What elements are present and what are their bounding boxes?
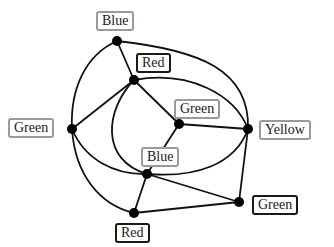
node-label-n2: Red: [136, 53, 171, 73]
edge-n6-n8: [147, 174, 239, 202]
node-label-n3: Green: [8, 118, 54, 138]
edge-n2-n4: [134, 80, 179, 124]
edge-n4-n5: [179, 124, 248, 129]
node-label-n5: Yellow: [259, 120, 311, 140]
node-label-n6: Blue: [141, 147, 179, 167]
node-n3: [67, 124, 77, 134]
node-n8: [234, 197, 244, 207]
node-n1: [112, 36, 122, 46]
node-n2: [129, 75, 139, 85]
edge-n1-n3: [72, 41, 117, 129]
node-label-n8: Green: [252, 195, 298, 215]
node-label-n1: Blue: [96, 11, 134, 31]
node-label-n4: Green: [174, 99, 220, 119]
edge-n1-n2: [117, 41, 134, 80]
edge-n2-n3: [72, 80, 134, 129]
edge-n7-n8: [134, 202, 239, 213]
edge-n3-n6: [72, 129, 147, 174]
edge-n6-n7: [134, 174, 147, 213]
node-label-n7: Red: [115, 223, 150, 243]
node-n4: [174, 119, 184, 129]
node-n6: [142, 169, 152, 179]
edge-n3-n7: [72, 129, 134, 213]
node-n7: [129, 208, 139, 218]
node-n5: [243, 124, 253, 134]
